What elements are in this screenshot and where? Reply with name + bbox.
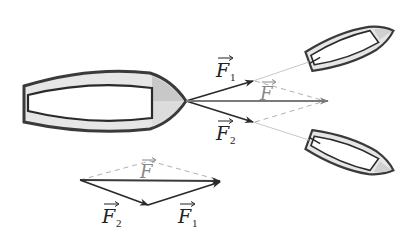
label-f-bottom-text: F	[139, 161, 154, 182]
vector-f2-top	[186, 101, 253, 122]
label-f-top-text: F	[259, 83, 274, 104]
label-f2-top-text: F	[215, 122, 230, 144]
label-f1-top-subscript: 1	[230, 71, 236, 83]
label-f1-bottom: F 1	[177, 202, 198, 230]
label-f1-top-text: F	[215, 59, 230, 81]
large-boat	[24, 71, 186, 131]
label-f2-bottom: F 2	[101, 202, 122, 230]
label-f2-top: F 2	[215, 119, 236, 147]
label-f2-bottom-subscript: 2	[116, 217, 122, 229]
vector-f2-bottom	[80, 180, 148, 205]
tow-line-lower	[253, 122, 309, 140]
large-boat-bow-shade-light	[152, 101, 184, 126]
upper-tugboat	[304, 17, 399, 75]
label-f2-bottom-text: F	[101, 205, 116, 227]
force-diagram: F 1 F F 2 F F 2 F 1	[0, 0, 415, 234]
large-boat-bow-shade	[152, 76, 184, 101]
label-f2-top-subscript: 2	[230, 134, 236, 146]
tow-line-upper	[253, 62, 309, 81]
vector-f1-bottom	[148, 182, 220, 205]
label-f1-bottom-subscript: 1	[192, 217, 198, 229]
label-f-bottom: F	[139, 158, 156, 183]
vector-f1-top	[186, 81, 253, 101]
large-boat-inner-deck	[28, 85, 152, 121]
parallelogram-dash-lower	[255, 101, 325, 122]
triangle-dash-right	[150, 161, 219, 180]
label-f1-bottom-text: F	[177, 205, 192, 227]
label-f1-top: F 1	[215, 56, 236, 84]
lower-tugboat	[304, 126, 399, 184]
